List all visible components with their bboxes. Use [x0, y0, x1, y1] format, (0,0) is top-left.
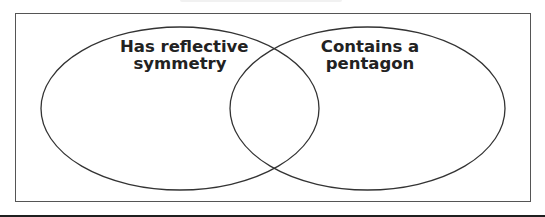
set-right-label-line1: Contains a [310, 38, 430, 55]
set-right-label: Contains a pentagon [310, 38, 430, 72]
bottom-edge-bar [0, 215, 545, 217]
set-left-label-line1: Has reflective [120, 38, 240, 55]
set-left-label: Has reflective symmetry [120, 38, 240, 72]
set-left-label-line2: symmetry [120, 55, 240, 72]
venn-diagram [0, 0, 545, 217]
set-right-label-line2: pentagon [310, 55, 430, 72]
